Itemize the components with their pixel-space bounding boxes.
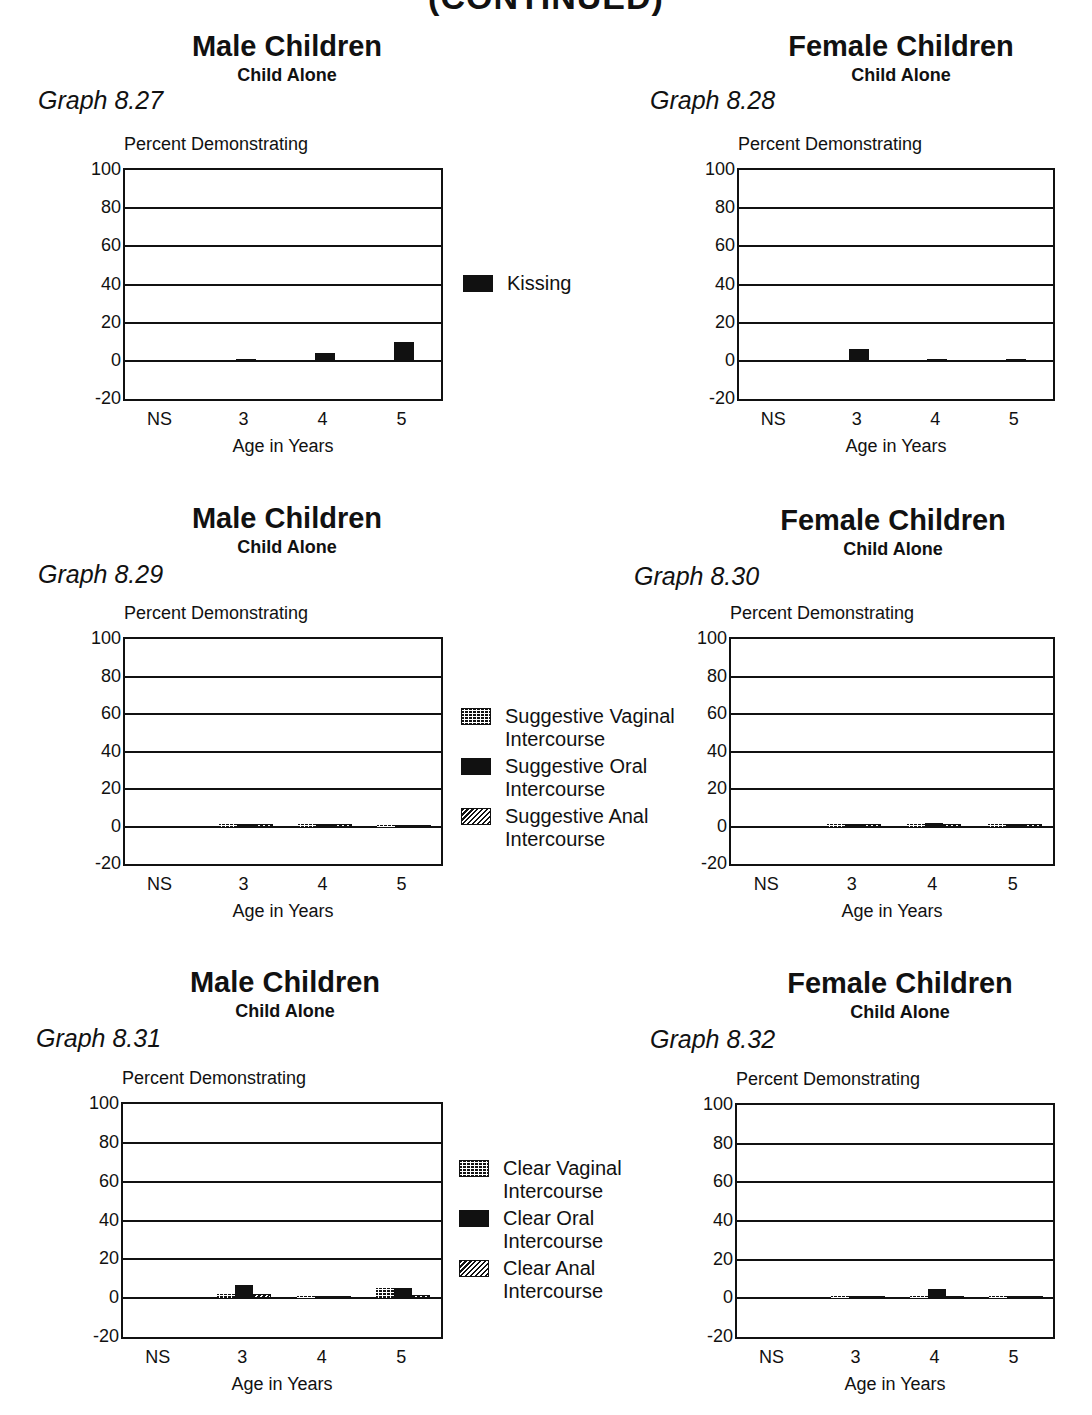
legend-item: Kissing — [463, 272, 571, 295]
chart-title: Female Children — [693, 504, 1092, 537]
y-tick-label: 0 — [81, 817, 121, 835]
bar-suggestive-oral-intercourse — [316, 824, 334, 827]
y-tick-label: 0 — [79, 1288, 119, 1306]
legend-label: Clear Anal Intercourse — [503, 1257, 603, 1302]
chart-subtitle: Child Alone — [87, 537, 487, 558]
gridline — [737, 1143, 1053, 1145]
bar-suggestive-anal-intercourse — [863, 824, 881, 827]
x-tick-label: 3 — [222, 1347, 262, 1368]
y-tick-label: 100 — [693, 1095, 733, 1113]
bar-clear-vaginal-intercourse — [989, 1296, 1007, 1298]
bar-kissing — [927, 359, 947, 361]
bar-suggestive-oral-intercourse — [237, 824, 255, 827]
gridline — [737, 1259, 1053, 1261]
x-tick-label: 4 — [912, 874, 952, 895]
gridline — [123, 1258, 441, 1260]
y-axis-label: Percent Demonstrating — [124, 134, 308, 155]
chart-title: Male Children — [85, 966, 485, 999]
y-tick-label: 80 — [695, 198, 735, 216]
legend-clear-intercourse: Clear Vaginal IntercourseClear Oral Inte… — [459, 1157, 639, 1307]
legend-item: Clear Anal Intercourse — [459, 1257, 639, 1303]
chart-title: Male Children — [87, 502, 487, 535]
y-tick-label: -20 — [81, 389, 121, 407]
bar-suggestive-vaginal-intercourse — [377, 825, 395, 827]
bar-clear-vaginal-intercourse — [297, 1296, 315, 1298]
legend-item: Suggestive Oral Intercourse — [461, 755, 696, 801]
x-axis-label: Age in Years — [796, 436, 996, 457]
y-tick-label: 80 — [693, 1134, 733, 1152]
gridline — [731, 676, 1053, 678]
bar-clear-oral-intercourse — [315, 1296, 333, 1298]
y-tick-label: 80 — [81, 667, 121, 685]
x-tick-label: 3 — [224, 874, 264, 895]
y-tick-label: 60 — [79, 1172, 119, 1190]
plot-area — [729, 637, 1055, 866]
legend-swatch-grid — [459, 1160, 489, 1177]
x-tick-label: 3 — [836, 1347, 876, 1368]
legend-label: Suggestive Vaginal Intercourse — [505, 705, 675, 750]
y-tick-label: 80 — [687, 667, 727, 685]
y-axis-label: Percent Demonstrating — [122, 1068, 306, 1089]
bar-clear-vaginal-intercourse — [910, 1296, 928, 1298]
y-tick-label: 20 — [81, 779, 121, 797]
gridline — [123, 1181, 441, 1183]
y-tick-label: 100 — [687, 629, 727, 647]
legend-item: Suggestive Vaginal Intercourse — [461, 705, 696, 751]
gridline — [125, 676, 441, 678]
x-tick-label: 5 — [994, 409, 1034, 430]
bar-kissing — [849, 349, 869, 360]
y-tick-label: 100 — [695, 160, 735, 178]
legend-swatch-solid — [461, 758, 491, 775]
plot-area — [735, 1103, 1055, 1339]
bar-clear-anal-intercourse — [1025, 1296, 1043, 1298]
y-tick-label: 0 — [693, 1288, 733, 1306]
graph-number-label: Graph 8.28 — [650, 86, 775, 115]
gridline — [125, 245, 441, 247]
bar-clear-anal-intercourse — [946, 1296, 964, 1298]
gridline — [125, 322, 441, 324]
graph-number-label: Graph 8.30 — [634, 562, 759, 591]
y-tick-label: 40 — [79, 1211, 119, 1229]
gridline — [739, 207, 1053, 209]
x-tick-label: 3 — [224, 409, 264, 430]
legend-swatch-grid — [461, 708, 491, 725]
bar-clear-oral-intercourse — [1007, 1296, 1025, 1298]
bar-suggestive-vaginal-intercourse — [298, 824, 316, 827]
x-tick-label: 4 — [303, 874, 343, 895]
y-tick-label: 0 — [81, 351, 121, 369]
y-tick-label: 40 — [693, 1211, 733, 1229]
plot-area — [737, 168, 1055, 401]
legend-label: Clear Vaginal Intercourse — [503, 1157, 622, 1202]
gridline — [125, 751, 441, 753]
page-header-fragment: (CONTINUED) — [0, 0, 1092, 17]
y-tick-label: 60 — [81, 236, 121, 254]
bar-suggestive-oral-intercourse — [925, 823, 943, 827]
y-tick-label: -20 — [81, 854, 121, 872]
bar-suggestive-anal-intercourse — [334, 824, 352, 827]
y-tick-label: 20 — [695, 313, 735, 331]
y-tick-label: 20 — [693, 1250, 733, 1268]
y-tick-label: 40 — [81, 275, 121, 293]
y-tick-label: 60 — [693, 1172, 733, 1190]
legend-swatch-hatch — [459, 1260, 489, 1277]
x-tick-label: NS — [138, 1347, 178, 1368]
y-axis-label: Percent Demonstrating — [738, 134, 922, 155]
y-tick-label: 100 — [81, 629, 121, 647]
chart-subtitle: Child Alone — [701, 65, 1092, 86]
bar-suggestive-anal-intercourse — [943, 824, 961, 827]
x-tick-label: 3 — [837, 409, 877, 430]
bar-clear-anal-intercourse — [253, 1294, 271, 1298]
bar-kissing — [236, 359, 256, 361]
bar-clear-anal-intercourse — [867, 1296, 885, 1298]
y-tick-label: -20 — [687, 854, 727, 872]
y-axis-label: Percent Demonstrating — [736, 1069, 920, 1090]
gridline — [737, 1220, 1053, 1222]
x-axis-label: Age in Years — [182, 1374, 382, 1395]
chart-title: Female Children — [701, 30, 1092, 63]
gridline — [739, 245, 1053, 247]
legend-suggestive-intercourse: Suggestive Vaginal IntercourseSuggestive… — [461, 705, 696, 855]
bar-suggestive-vaginal-intercourse — [827, 824, 845, 827]
x-axis-label: Age in Years — [183, 901, 383, 922]
bar-clear-oral-intercourse — [928, 1289, 946, 1299]
gridline — [731, 788, 1053, 790]
